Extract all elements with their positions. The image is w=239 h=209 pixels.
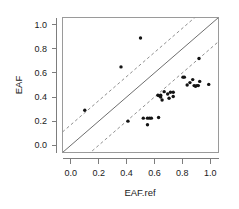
data-point (139, 36, 142, 39)
data-point (142, 116, 145, 119)
data-point (172, 95, 175, 98)
data-point (119, 65, 122, 68)
data-point (188, 81, 191, 84)
reference-lines-group (63, 0, 219, 177)
data-point (167, 97, 170, 100)
data-point (183, 75, 186, 78)
data-point-group (83, 36, 210, 126)
y-axis: 0.00.20.40.60.81.0 EAF (13, 18, 57, 153)
y-axis-tick-marks (52, 25, 57, 146)
scatter-plot-figure: 0.00.20.40.60.81.0 EAF 0.00.20.40.60.81.… (0, 0, 239, 209)
data-point (83, 109, 86, 112)
data-point (185, 83, 188, 86)
x-tick-label: 0.0 (65, 168, 78, 178)
data-point (126, 119, 129, 122)
x-tick-label: 0.6 (148, 168, 161, 178)
data-point (162, 90, 165, 93)
data-point (197, 57, 200, 60)
y-tick-label: 0.2 (34, 116, 47, 126)
data-point (197, 84, 200, 87)
y-tick-label: 1.0 (34, 20, 47, 30)
x-tick-label: 0.4 (120, 168, 133, 178)
data-point (172, 91, 175, 94)
y-tick-label: 0.8 (34, 44, 47, 54)
x-tick-label: 1.0 (204, 168, 217, 178)
y-axis-tick-labels: 0.00.20.40.60.81.0 (34, 20, 47, 151)
x-tick-label: 0.2 (92, 168, 105, 178)
data-point (207, 83, 210, 86)
x-axis-tick-marks (71, 159, 210, 164)
data-point (146, 123, 149, 126)
data-point (191, 78, 194, 81)
data-point (198, 80, 201, 83)
data-point (166, 92, 169, 95)
y-axis-title: EAF (13, 76, 24, 95)
y-tick-label: 0.6 (34, 68, 47, 78)
data-point (160, 98, 163, 101)
x-tick-label: 0.8 (176, 168, 189, 178)
upper-band-reference-line (63, 0, 219, 132)
data-point (150, 116, 153, 119)
data-point (157, 116, 160, 119)
x-axis-title: EAF.ref (124, 187, 156, 198)
x-axis: 0.00.20.40.60.81.0 EAF.ref (63, 159, 219, 199)
y-tick-label: 0.4 (34, 92, 47, 102)
plot-canvas: 0.00.20.40.60.81.0 EAF 0.00.20.40.60.81.… (0, 0, 239, 209)
x-axis-tick-labels: 0.00.20.40.60.81.0 (65, 168, 217, 178)
y-tick-label: 0.0 (34, 140, 47, 150)
data-point (159, 95, 162, 98)
